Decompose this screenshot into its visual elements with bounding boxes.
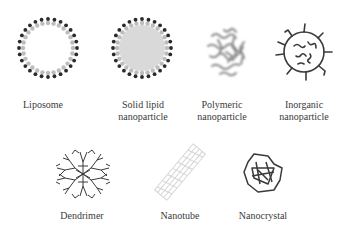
polymeric-nanoparticle-label: Polymeric nanoparticle — [197, 99, 246, 123]
solid-lipid-nanoparticle-label: Solid lipid nanoparticle — [118, 99, 167, 123]
liposome-label: Liposome — [23, 99, 63, 111]
inorganic-nanoparticle-label: Inorganic nanoparticle — [279, 99, 328, 123]
dendrimer-label: Dendrimer — [60, 210, 103, 222]
polymeric-nanoparticle-icon — [200, 22, 260, 84]
solid-lipid-nanoparticle-icon — [106, 12, 178, 84]
liposome-icon — [12, 12, 84, 84]
nanocrystal-icon — [240, 150, 286, 196]
nanotube-label: Nanotube — [161, 210, 200, 222]
nanocrystal-label: Nanocrystal — [239, 210, 287, 222]
dendrimer-icon — [48, 144, 118, 204]
nanotube-icon — [148, 140, 212, 204]
inorganic-nanoparticle-icon — [270, 18, 338, 84]
